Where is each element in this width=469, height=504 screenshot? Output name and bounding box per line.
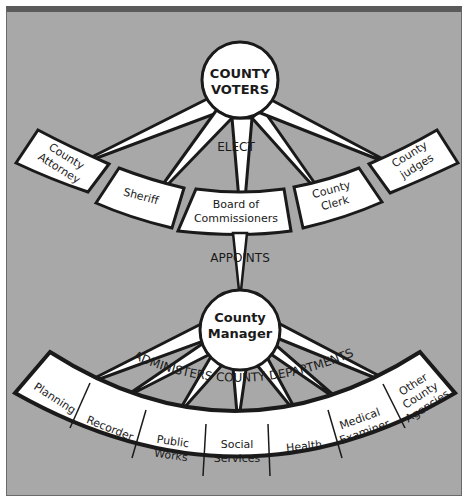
elect-label: ELECT (217, 140, 255, 154)
manager-hub-line2: Manager (208, 326, 273, 341)
svg-text:Social: Social (221, 438, 254, 451)
dept-label-health: Health (285, 438, 322, 455)
dept-label-public-works: Public Works (153, 433, 190, 464)
manager-hub-line1: County (214, 310, 266, 325)
appoints-label: APPOINTS (210, 251, 270, 265)
voters-hub-line1: COUNTY (210, 66, 271, 81)
svg-text:Health: Health (285, 438, 322, 455)
county-government-diagram: COUNTY VOTERS ELECT County Attorney Sher… (0, 0, 469, 504)
voters-hub-line2: VOTERS (211, 82, 269, 97)
svg-text:Board of: Board of (213, 198, 261, 211)
svg-text:Commissioners: Commissioners (194, 212, 278, 225)
svg-text:Services: Services (214, 452, 261, 465)
